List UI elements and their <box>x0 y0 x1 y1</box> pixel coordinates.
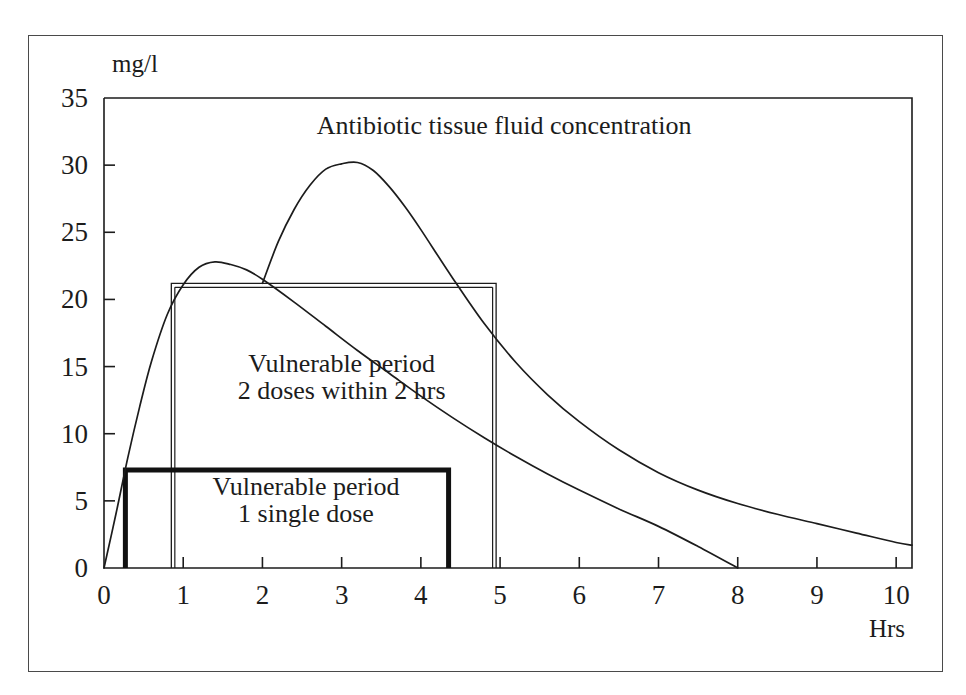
y-tick-label-15: 15 <box>61 352 88 382</box>
y-tick-label-20: 20 <box>61 284 88 314</box>
x-tick-label-8: 8 <box>731 580 745 610</box>
x-tick-label-10: 10 <box>883 580 910 610</box>
y-tick-label-25: 25 <box>61 217 88 247</box>
y-axis-title: mg/l <box>112 50 158 77</box>
x-tick-label-7: 7 <box>652 580 666 610</box>
series-curve-0 <box>104 262 738 568</box>
x-tick-label-4: 4 <box>414 580 428 610</box>
x-tick-label-3: 3 <box>335 580 349 610</box>
y-tick-label-10: 10 <box>61 419 88 449</box>
y-tick-label-0: 0 <box>75 553 89 583</box>
x-tick-label-2: 2 <box>256 580 270 610</box>
x-axis-ticks <box>183 557 896 568</box>
y-axis-ticks <box>104 165 115 501</box>
concentration-curves <box>104 162 912 568</box>
x-axis-tick-labels: 012345678910 <box>97 580 909 610</box>
plot-annotations: Antibiotic tissue fluid concentrationVul… <box>213 111 692 528</box>
x-tick-label-1: 1 <box>176 580 190 610</box>
y-tick-label-35: 35 <box>61 83 88 113</box>
annotation-vulnerable-two-doses-line2: 2 doses within 2 hrs <box>238 376 446 405</box>
antibiotic-concentration-chart: 05101520253035 012345678910 mg/l Hrs Ant… <box>0 0 966 695</box>
annotation-vulnerable-single-dose-line1: Vulnerable period <box>213 472 400 501</box>
y-tick-label-5: 5 <box>75 486 89 516</box>
annotation-vulnerable-single-dose-line2: 1 single dose <box>238 499 374 528</box>
y-axis-tick-labels: 05101520253035 <box>61 83 88 583</box>
x-tick-label-6: 6 <box>573 580 587 610</box>
y-tick-label-30: 30 <box>61 150 88 180</box>
annotation-vulnerable-two-doses-line1: Vulnerable period <box>248 349 435 378</box>
annotation-curve-title: Antibiotic tissue fluid concentration <box>317 111 692 140</box>
x-tick-label-0: 0 <box>97 580 111 610</box>
figure-root: 05101520253035 012345678910 mg/l Hrs Ant… <box>0 0 966 695</box>
x-axis-title: Hrs <box>869 615 905 642</box>
x-tick-label-5: 5 <box>493 580 507 610</box>
x-tick-label-9: 9 <box>810 580 824 610</box>
